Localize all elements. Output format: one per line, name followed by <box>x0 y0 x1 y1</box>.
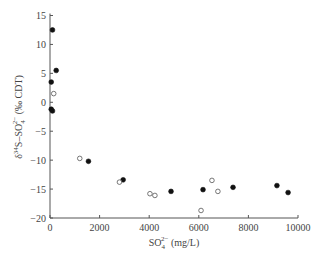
x-tick-label: 10000 <box>286 222 311 233</box>
open-data-point <box>117 180 122 185</box>
open-data-point <box>216 189 221 194</box>
open-data-point <box>77 156 82 161</box>
filled-data-point <box>50 109 55 114</box>
filled-data-point <box>286 190 291 195</box>
filled-data-point <box>231 185 236 190</box>
y-tick-label: 0 <box>41 97 46 108</box>
x-tick-label: 4000 <box>139 222 159 233</box>
x-tick-label: 2000 <box>90 222 110 233</box>
filled-data-point <box>169 189 174 194</box>
filled-data-point <box>50 28 55 33</box>
y-tick-label: 5 <box>41 68 46 79</box>
y-tick-label: −20 <box>30 213 46 224</box>
y-tick-label: 10 <box>36 39 46 50</box>
open-data-point <box>210 178 215 183</box>
x-axis-title: SO42− (mg/L) <box>149 235 200 251</box>
y-tick-label: 15 <box>36 10 46 21</box>
x-tick-label: 6000 <box>189 222 209 233</box>
filled-data-point <box>49 80 54 85</box>
y-tick-label: −5 <box>35 126 46 137</box>
open-data-point <box>148 191 153 196</box>
open-data-point <box>153 193 158 198</box>
filled-data-point <box>54 68 59 73</box>
axes: 0200040006000800010000−20−15−10−5051015 <box>30 10 310 233</box>
x-tick-label: 8000 <box>238 222 258 233</box>
filled-data-point <box>275 183 280 188</box>
y-axis-title: δ34S–SO42− (‰ CDT) <box>11 75 27 159</box>
y-tick-label: −10 <box>30 155 46 166</box>
open-data-point <box>51 91 56 96</box>
data-points <box>49 28 291 213</box>
filled-data-point <box>86 159 91 164</box>
filled-data-point <box>201 187 206 192</box>
open-data-point <box>199 208 204 213</box>
y-tick-label: −15 <box>30 184 46 195</box>
x-tick-label: 0 <box>48 222 53 233</box>
scatter-chart: 0200040006000800010000−20−15−10−5051015 … <box>0 0 322 257</box>
